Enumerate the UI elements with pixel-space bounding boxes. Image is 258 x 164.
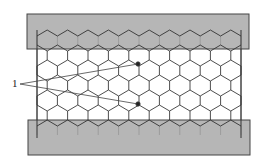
- callout-point: [136, 102, 140, 106]
- bottom-face-plate: [28, 120, 250, 155]
- callout-point: [136, 62, 140, 66]
- honeycomb-sandwich-diagram: [0, 0, 258, 164]
- callout-label: 1: [12, 77, 18, 89]
- callout-leader-lines: [20, 62, 140, 106]
- top-face-plate: [27, 14, 249, 49]
